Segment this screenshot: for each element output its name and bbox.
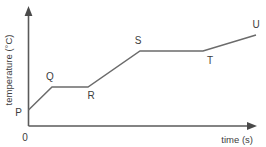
point-label-q: Q	[46, 71, 54, 82]
temperature-curve	[29, 35, 257, 110]
point-label-p: P	[15, 107, 22, 118]
point-label-r: R	[87, 90, 94, 101]
x-axis-label: time (s)	[221, 134, 253, 145]
heating-curve-chart: P Q R S T U 0 time (s) temperature (°C)	[0, 0, 266, 147]
point-label-t: T	[207, 55, 213, 66]
y-axis-label: temperature (°C)	[3, 35, 14, 106]
origin-label: 0	[22, 132, 28, 143]
graph-figure: P Q R S T U 0 time (s) temperature (°C)	[0, 0, 266, 147]
arrow-right-icon	[247, 122, 257, 130]
arrow-up-icon	[25, 6, 33, 16]
point-label-s: S	[135, 35, 142, 46]
point-label-u: U	[252, 19, 259, 30]
